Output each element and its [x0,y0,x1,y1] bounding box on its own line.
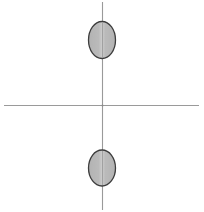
upper-ellipse [89,22,116,59]
axis-diagram-svg [0,0,204,212]
figure-canvas [0,0,204,212]
origin-point [102,105,104,107]
lower-ellipse [89,150,116,186]
